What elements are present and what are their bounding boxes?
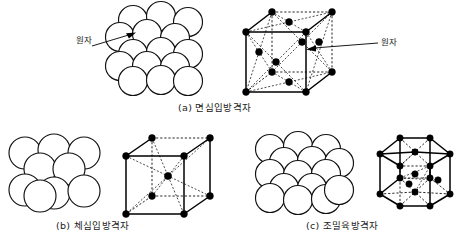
bcc-lattice-svg xyxy=(118,132,222,218)
hcp-sphere-model xyxy=(253,134,351,216)
fcc-sphere-model xyxy=(103,4,205,98)
atom-leader-left xyxy=(92,30,144,50)
bcc-sphere-model xyxy=(6,136,106,214)
caption-bcc: (b) 체심입방격자 xyxy=(56,218,129,232)
bcc-lattice-model xyxy=(118,132,222,218)
bcc-sphere-svg xyxy=(6,136,106,214)
hcp-sphere-svg xyxy=(253,134,351,216)
crystal-lattice-figure: 원자 xyxy=(0,0,470,252)
fcc-sphere-svg xyxy=(103,4,205,98)
atom-label-left: 원자 xyxy=(76,33,92,45)
hcp-lattice-svg xyxy=(368,132,468,220)
hcp-lattice-model xyxy=(368,132,468,220)
atom-leader-right xyxy=(300,40,380,54)
caption-hcp: (c) 조밀육방격자 xyxy=(306,218,379,232)
caption-fcc: (a) 면심입방격자 xyxy=(178,100,251,114)
atom-label-right: 원자 xyxy=(381,35,397,47)
